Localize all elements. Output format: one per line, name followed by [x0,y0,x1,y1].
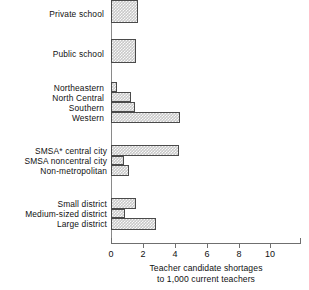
category-label-smsa-noncentral-city: SMSA noncentral city [24,156,107,166]
bar-chart: Private school Public school Northeaster… [0,0,309,290]
bar-smsa-noncentral-city [111,156,124,165]
category-label-northeastern: Northeastern [54,83,104,93]
category-label-non-metropolitan: Non-metropolitan [40,166,107,176]
bar-large-district [111,218,156,230]
x-axis-tick-8 [239,243,240,248]
category-label-small-district: Small district [57,199,107,209]
bar-western [111,112,180,123]
x-axis-tick-label-8: 8 [236,249,241,259]
x-axis-tick-10 [270,243,271,248]
category-label-southern: Southern [69,103,104,113]
bar-public-school [111,39,136,63]
x-axis-tick-label-4: 4 [172,249,177,259]
category-label-large-district: Large district [57,219,107,229]
category-label-medium-district: Medium-sized district [25,209,107,219]
x-axis-tick-end [300,238,301,244]
category-label-smsa-central-city: SMSA* central city [35,146,107,156]
x-axis-title-line1: Teacher candidate shortages [111,263,301,274]
bar-smsa-central-city [111,145,179,156]
x-axis-tick-start [111,238,112,244]
bar-southern [111,102,135,112]
bar-small-district [111,198,136,209]
x-axis-line [111,243,301,244]
bar-northeastern [111,82,117,92]
x-axis-tick-label-10: 10 [265,249,275,259]
x-axis-tick-label-0: 0 [108,249,113,259]
x-axis-tick-label-6: 6 [204,249,209,259]
category-label-north-central: North Central [52,93,104,103]
x-axis-tick-6 [207,243,208,248]
category-label-private-school: Private school [49,9,104,19]
bar-medium-district [111,209,125,218]
x-axis-tick-2 [143,243,144,248]
plot-area [111,0,301,245]
category-label-public-school: Public school [53,49,104,59]
bar-private-school [111,0,138,23]
x-axis-title: Teacher candidate shortages to 1,000 cur… [111,263,301,285]
x-axis-tick-label-2: 2 [140,249,145,259]
category-label-western: Western [72,113,104,123]
x-axis-title-line2: to 1,000 current teachers [111,274,301,285]
x-axis-tick-4 [175,243,176,248]
bar-non-metropolitan [111,165,129,176]
bar-north-central [111,92,131,102]
